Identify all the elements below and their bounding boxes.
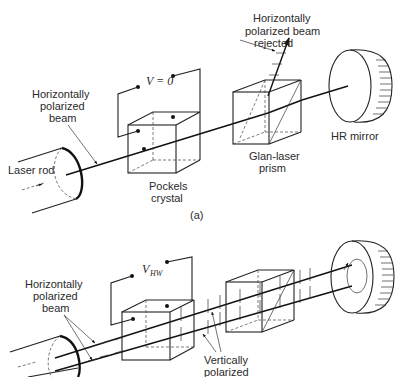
glan-laser-prism-a [233, 80, 301, 144]
prism-label-line1: Glan-laser [249, 150, 300, 162]
panel-b: V HW [10, 241, 394, 377]
pockels-crystal-b [122, 300, 194, 360]
pockels-crystal-a [128, 112, 200, 173]
beam-label-b-line3: beam [42, 302, 70, 314]
hr-mirror-b [331, 241, 394, 313]
voltage-circuit-b: V HW [111, 257, 192, 325]
panel-a: V = 0 Horizontall [8, 12, 392, 221]
vertical-label-line1: Vertically [204, 354, 249, 366]
vertical-label-line2: polarized [204, 366, 249, 377]
laser-rod-label: Laser rod [8, 164, 54, 176]
beam-label-b-line1: Horizontally [25, 278, 83, 290]
mirror-label: HR mirror [331, 130, 379, 142]
prism-label-line2: prism [259, 162, 286, 174]
rejected-label-line3: rejected [254, 37, 293, 49]
voltage-subscript-b: HW [149, 269, 164, 278]
pockels-cell-q-switch-diagram: V = 0 Horizontall [0, 0, 398, 377]
rejected-label-line1: Horizontally [253, 12, 311, 24]
pockels-label-line1: Pockels [149, 180, 188, 192]
voltage-circuit-a: V = 0 [118, 69, 200, 137]
beam-b-upper [55, 265, 352, 358]
voltage-label-a: V = 0 [146, 74, 173, 88]
panel-a-caption: (a) [190, 209, 203, 221]
laser-rod-b [10, 336, 80, 377]
pockels-label-line2: crystal [151, 192, 183, 204]
rejected-label-line2: polarized beam [245, 25, 320, 37]
beam-label-a-line3: beam [49, 112, 77, 124]
beam-label-b-line2: polarized [33, 290, 78, 302]
beam-label-a-line1: Horizontally [32, 88, 90, 100]
laser-rod-a [18, 148, 82, 213]
beam-label-a-line2: polarized [40, 100, 85, 112]
hr-mirror-a [329, 50, 392, 122]
